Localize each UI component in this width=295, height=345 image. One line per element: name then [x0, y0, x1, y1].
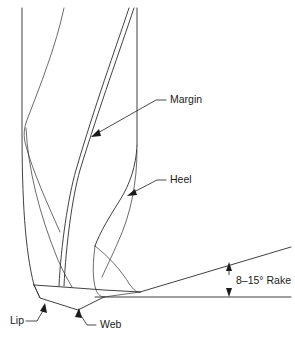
- heel-leader-line: [132, 180, 166, 193]
- web-label: Web: [100, 318, 122, 330]
- margin-line-outer: [64, 8, 134, 286]
- heel-curve: [95, 146, 137, 246]
- flute-curve-left-leading: [24, 8, 64, 232]
- lip-left-facet: [34, 285, 40, 298]
- diagram-canvas: 8–15° Rake Margin Heel Lip Web: [0, 0, 295, 345]
- rake-angle-group: 8–15° Rake: [95, 247, 291, 297]
- callout-margin: Margin: [91, 93, 202, 137]
- flank-curve: [95, 246, 140, 292]
- drill-body-group: [22, 8, 140, 310]
- rake-arrow-down-icon: [226, 288, 232, 297]
- heel-arrow-icon: [127, 189, 137, 196]
- callout-lip: Lip: [10, 303, 47, 326]
- lip-label: Lip: [10, 314, 24, 326]
- web-leader-line: [80, 314, 96, 325]
- drill-point-geometry-figure: 8–15° Rake Margin Heel Lip Web: [0, 0, 295, 345]
- lip-top-edge: [34, 285, 140, 292]
- callout-web: Web: [75, 308, 122, 330]
- rake-angle-label: 8–15° Rake: [236, 274, 291, 286]
- body-left-edge: [22, 8, 34, 285]
- lip-arrow-icon: [40, 303, 47, 313]
- callout-heel: Heel: [127, 173, 192, 196]
- margin-leader-line: [96, 100, 166, 134]
- heel-label: Heel: [170, 173, 192, 185]
- margin-label: Margin: [170, 93, 202, 105]
- point-tip-facet: [104, 292, 140, 297]
- margin-line-inner: [59, 8, 129, 286]
- flute-curve-right: [102, 150, 137, 277]
